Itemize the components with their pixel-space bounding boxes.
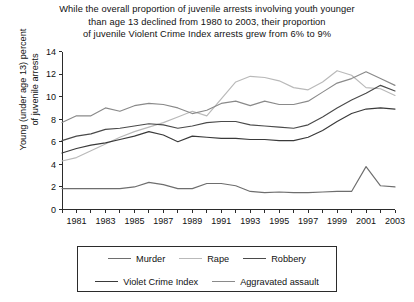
legend-row-2: Violet Crime Index Aggravated assault — [78, 270, 336, 293]
series-line-murder — [62, 167, 395, 193]
legend-item-robbery[interactable]: Robbery — [243, 254, 306, 264]
legend-label-robbery: Robbery — [271, 254, 306, 264]
x-tick-label: 1999 — [327, 216, 347, 226]
x-tick-label: 1997 — [298, 216, 318, 226]
x-tick-label: 2003 — [385, 216, 405, 226]
y-tick-label: 0 — [51, 205, 56, 215]
x-tick-label: 1989 — [182, 216, 202, 226]
x-tick-label: 1991 — [211, 216, 231, 226]
y-tick-label: 8 — [51, 115, 56, 125]
legend-item-rape[interactable]: Rape — [179, 254, 229, 264]
legend-swatch-aggravated-assault — [212, 281, 235, 282]
y-tick-label: 14 — [46, 47, 56, 57]
x-tick-label: 1993 — [240, 216, 260, 226]
x-tick-label: 1981 — [66, 216, 86, 226]
series-line-violet-crime-index — [62, 108, 395, 153]
legend-swatch-violent-crime-index — [95, 281, 118, 282]
legend-swatch-murder — [108, 258, 131, 259]
series-line-aggravated-assault — [62, 72, 395, 123]
legend-label-violent-crime-index: Violet Crime Index — [123, 277, 198, 287]
legend-row-1: Murder Rape Robbery — [78, 247, 336, 270]
legend-swatch-rape — [179, 258, 202, 259]
x-tick-label: 2001 — [356, 216, 376, 226]
series-line-rape — [62, 71, 395, 161]
x-tick-label: 1995 — [269, 216, 289, 226]
x-tick-label: 1983 — [95, 216, 115, 226]
series-line-robbery — [62, 85, 395, 140]
x-tick-label: 1985 — [124, 216, 144, 226]
legend-label-rape: Rape — [207, 254, 229, 264]
legend-item-violent-crime-index[interactable]: Violet Crime Index — [95, 277, 198, 287]
legend-label-aggravated-assault: Aggravated assault — [240, 277, 319, 287]
y-tick-label: 4 — [51, 160, 56, 170]
legend-label-murder: Murder — [136, 254, 165, 264]
y-tick-label: 6 — [51, 137, 56, 147]
legend-item-aggravated-assault[interactable]: Aggravated assault — [212, 277, 319, 287]
y-tick-label: 10 — [46, 92, 56, 102]
y-tick-label: 12 — [46, 69, 56, 79]
y-tick-label: 2 — [51, 182, 56, 192]
x-tick-label: 1987 — [153, 216, 173, 226]
legend-swatch-robbery — [243, 258, 266, 259]
chart-page: While the overall proportion of juvenile… — [0, 0, 414, 302]
legend-item-murder[interactable]: Murder — [108, 254, 165, 264]
chart-legend: Murder Rape Robbery Violet Crime Index A… — [77, 246, 337, 292]
